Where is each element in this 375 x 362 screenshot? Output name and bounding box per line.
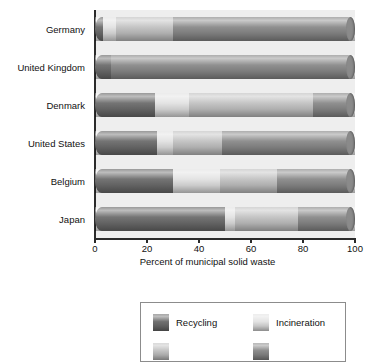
legend-swatch: [253, 343, 269, 360]
bar-segment-landfill: [313, 93, 355, 117]
legend-label: Incineration: [276, 317, 325, 328]
category-label-denmark: Denmark: [46, 100, 85, 111]
bar-segment-landfill: [173, 17, 355, 41]
x-axis-title: Percent of municipal solid waste: [0, 256, 375, 267]
bar-row: [95, 207, 355, 231]
x-tick-label: 0: [92, 243, 97, 254]
x-tick-label: 60: [246, 243, 257, 254]
bar-track: [95, 93, 355, 117]
x-tick-label: 40: [194, 243, 205, 254]
bar-segment-incineration: [173, 169, 220, 193]
bar-segment-landfill: [277, 169, 355, 193]
bar-row: [95, 169, 355, 193]
bar-segment-landfill: [111, 55, 355, 79]
bar-segment-recycling: [95, 93, 155, 117]
bar-segment-recycling: [95, 55, 111, 79]
plot-background: [95, 10, 355, 238]
bar-segment-composting: [173, 131, 222, 155]
bar-track: [95, 207, 355, 231]
bar-segment-incineration: [157, 131, 173, 155]
legend-item-recycling: Recycling: [153, 314, 217, 331]
legend-item-4: [253, 343, 276, 360]
y-axis-line: [94, 10, 96, 238]
x-tick-label: 20: [142, 243, 153, 254]
x-axis-title-text: Percent of municipal solid waste: [100, 256, 276, 267]
bar-segment-recycling: [95, 131, 157, 155]
bar-segment-composting: [189, 93, 314, 117]
bar-track: [95, 169, 355, 193]
category-label-united-kingdom: United Kingdom: [17, 62, 85, 73]
bar-segment-landfill: [298, 207, 355, 231]
bar-segment-recycling: [95, 17, 103, 41]
legend-swatch: [153, 314, 169, 331]
bar-segment-landfill: [222, 131, 355, 155]
bar-segment-recycling: [95, 207, 225, 231]
legend-item-3: [153, 343, 176, 360]
category-label-united-states: United States: [28, 138, 85, 149]
bar-segment-composting: [116, 17, 173, 41]
bar-track: [95, 17, 355, 41]
x-tick-label: 80: [298, 243, 309, 254]
bar-row: [95, 17, 355, 41]
category-label-japan: Japan: [59, 214, 85, 225]
bar-segment-composting: [220, 169, 277, 193]
bar-track: [95, 131, 355, 155]
legend-label: Recycling: [176, 317, 217, 328]
bar-segment-recycling: [95, 169, 173, 193]
legend: RecyclingIncineration: [140, 302, 346, 362]
category-label-belgium: Belgium: [51, 176, 85, 187]
bar-row: [95, 55, 355, 79]
stacked-bar-chart: 020406080100 GermanyUnited KingdomDenmar…: [0, 0, 375, 268]
x-tick-label: 100: [347, 243, 363, 254]
bar-segment-incineration: [225, 207, 235, 231]
bar-segment-composting: [235, 207, 297, 231]
bar-row: [95, 93, 355, 117]
bar-segment-incineration: [155, 93, 189, 117]
legend-swatch: [253, 314, 269, 331]
x-axis-line: [94, 238, 356, 240]
bar-track: [95, 55, 355, 79]
legend-item-incineration: Incineration: [253, 314, 325, 331]
legend-swatch: [153, 343, 169, 360]
bar-segment-incineration: [103, 17, 116, 41]
bar-row: [95, 131, 355, 155]
category-label-germany: Germany: [46, 24, 85, 35]
